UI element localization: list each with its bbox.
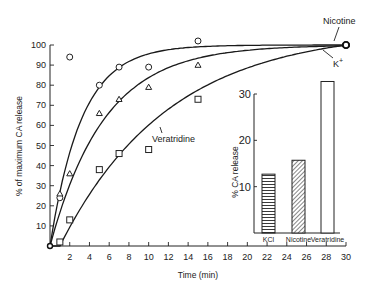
triangle-marker bbox=[146, 84, 152, 89]
square-marker bbox=[67, 217, 73, 223]
x-tick-label: 10 bbox=[144, 252, 154, 262]
inset-bar-chart: % CA release 102030KClNicotineVeratridin… bbox=[230, 81, 344, 243]
y-tick-label: 30 bbox=[36, 181, 46, 191]
circle-marker bbox=[146, 64, 152, 70]
cat-release-chart: 2468101214161820222426283010203040506070… bbox=[0, 0, 376, 295]
inset-category-label: Nicotine bbox=[286, 236, 311, 243]
y-tick-label: 70 bbox=[36, 100, 46, 110]
x-tick-label: 6 bbox=[107, 252, 112, 262]
y-tick-label: 10 bbox=[36, 221, 46, 231]
kplus-pointer bbox=[323, 50, 333, 58]
triangle-marker bbox=[96, 110, 102, 115]
x-tick-label: 16 bbox=[203, 252, 213, 262]
x-tick-label: 18 bbox=[223, 252, 233, 262]
y-axis-label: % of maximum CA release bbox=[14, 96, 24, 196]
square-marker bbox=[146, 147, 152, 153]
square-marker bbox=[57, 239, 63, 245]
inset-bar-nicotine bbox=[292, 160, 305, 233]
x-axis-label: Time (min) bbox=[178, 270, 218, 280]
y-tick-label: 100 bbox=[31, 40, 46, 50]
y-tick-label: 90 bbox=[36, 60, 46, 70]
y-tick-label: 60 bbox=[36, 120, 46, 130]
x-tick-label: 22 bbox=[262, 252, 272, 262]
kplus-annotation: K+ bbox=[333, 57, 343, 69]
veratridine-pointer bbox=[160, 127, 162, 133]
x-tick-label: 30 bbox=[341, 252, 351, 262]
triangle-marker bbox=[57, 191, 63, 196]
square-marker bbox=[96, 167, 102, 173]
circle-marker bbox=[67, 54, 73, 60]
inset-y-tick-label: 10 bbox=[239, 181, 251, 193]
inset-y-tick-label: 20 bbox=[239, 134, 251, 146]
endpoint-marker bbox=[343, 42, 349, 48]
inset-bar-kcl bbox=[262, 174, 275, 233]
inset-category-label: KCl bbox=[263, 236, 275, 243]
inset-y-tick-label: 30 bbox=[239, 88, 251, 100]
circle-marker bbox=[195, 38, 201, 44]
x-tick-label: 26 bbox=[302, 252, 312, 262]
x-tick-label: 12 bbox=[163, 252, 173, 262]
y-tick-label: 20 bbox=[36, 201, 46, 211]
x-tick-label: 4 bbox=[87, 252, 92, 262]
triangle-marker bbox=[195, 62, 201, 67]
nicotine-pointer bbox=[334, 27, 339, 41]
nicotine-annotation: Nicotine bbox=[323, 16, 356, 26]
y-tick-label: 80 bbox=[36, 80, 46, 90]
y-tick-label: 40 bbox=[36, 161, 46, 171]
inset-bar-veratridine bbox=[321, 81, 334, 233]
inset-category-label: Veratridine bbox=[311, 236, 345, 243]
circle-marker bbox=[96, 82, 102, 88]
y-tick-label: 50 bbox=[36, 141, 46, 151]
square-marker bbox=[195, 96, 201, 102]
origin-marker bbox=[48, 244, 53, 249]
veratridine-annotation: Veratridine bbox=[152, 134, 195, 144]
x-tick-label: 24 bbox=[282, 252, 292, 262]
triangle-marker bbox=[67, 171, 73, 176]
x-tick-label: 28 bbox=[321, 252, 331, 262]
x-tick-label: 20 bbox=[242, 252, 252, 262]
x-tick-label: 14 bbox=[183, 252, 193, 262]
x-tick-label: 2 bbox=[67, 252, 72, 262]
x-tick-label: 8 bbox=[126, 252, 131, 262]
circle-marker bbox=[116, 64, 122, 70]
square-marker bbox=[116, 151, 122, 157]
